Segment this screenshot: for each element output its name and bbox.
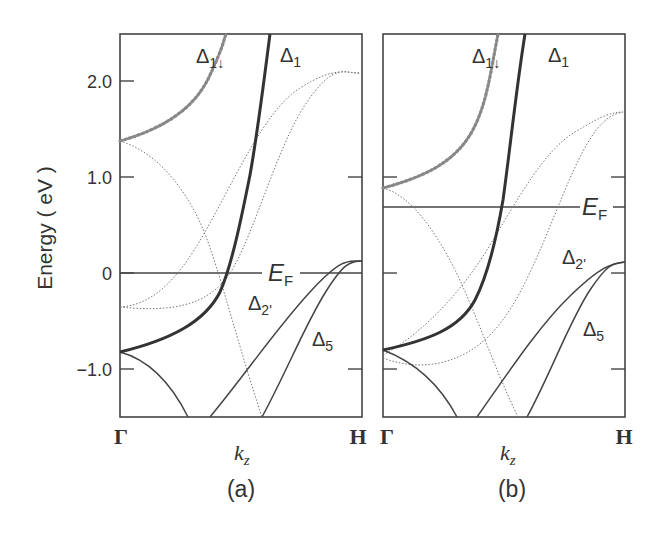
panel-b-gamma-label: Γ (380, 424, 394, 449)
panel-b: Δ1↓ Δ1 EF Δ2' Δ5 Γ H kz (b) (380, 34, 633, 502)
panel-b-caption: (b) (498, 476, 526, 502)
panel-b-label-delta2p: Δ2' (562, 246, 586, 272)
panel-a-delta1-minority (120, 34, 226, 141)
panel-a-gamma-label: Γ (114, 424, 128, 449)
panel-a-kz-label: kz (234, 440, 250, 468)
ytick-2: 2.0 (87, 72, 112, 92)
panel-b-dotted-bands (383, 112, 623, 417)
panel-a-dotted-bands (120, 72, 360, 417)
panel-a-h-label: H (349, 424, 366, 449)
panel-a: Δ1↓ Δ1 EF Δ2' Δ5 Γ H kz (a) (114, 34, 367, 502)
panel-b-h-label: H (615, 424, 632, 449)
panel-b-ef-label: EF (582, 193, 607, 223)
y-axis-label: Energy ( eV ) (33, 166, 56, 290)
panel-a-caption: (a) (227, 476, 255, 502)
ytick-0: 0 (102, 264, 112, 284)
panel-a-label-delta5: Δ5 (312, 328, 333, 354)
panel-b-label-delta1: Δ1 (548, 44, 569, 70)
panel-b-delta1-majority (383, 34, 525, 350)
panel-a-label-delta1: Δ1 (280, 44, 301, 70)
panel-a-label-delta2p: Δ2' (248, 292, 272, 318)
panel-b-label-delta5: Δ5 (583, 318, 604, 344)
panel-b-kz-label: kz (500, 440, 516, 468)
ytick-1: 1.0 (87, 168, 112, 188)
ytick-neg1: −1.0 (76, 360, 112, 380)
panel-a-frame (120, 34, 362, 417)
panel-b-frame (383, 34, 625, 417)
band-structure-figure: Energy ( eV ) 2.0 1.0 0 −1.0 (0, 0, 655, 543)
